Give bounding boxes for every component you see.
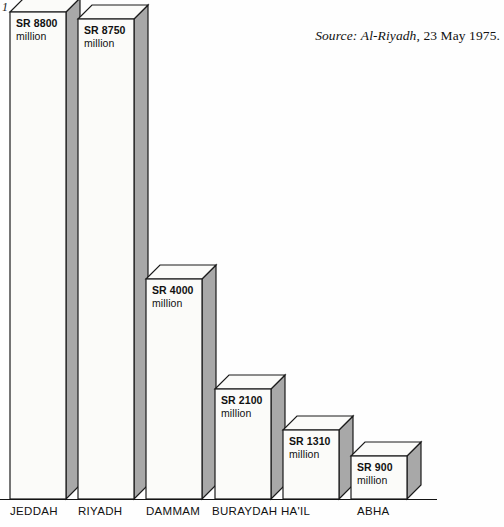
bar-value-unit: million [16, 30, 58, 43]
bar-value-unit: million [152, 297, 194, 310]
category-axis-labels: JEDDAHRIYADHDAMMAMBURAYDAHHA'ILABHA [0, 505, 504, 525]
category-label-abha: ABHA [357, 505, 390, 517]
bars-svg [0, 0, 504, 527]
bar-riyadh [78, 5, 148, 499]
bar-value-amount: SR 900 [357, 461, 393, 474]
bar-chart: SR 8800millionSR 8750millionSR 4000milli… [0, 0, 504, 527]
bar-value-label: SR 2100million [221, 394, 263, 419]
bar-jeddah [10, 0, 80, 499]
bar-value-unit: million [289, 448, 331, 461]
bar-value-amount: SR 8800 [16, 17, 58, 30]
chart-page: 1 Source: Al-Riyadh, 23 May 1975. SR 880… [0, 0, 504, 527]
bar-front-face [10, 12, 66, 499]
bar-side-face [202, 265, 216, 499]
bar-front-face [78, 19, 134, 499]
bar-value-unit: million [221, 407, 263, 420]
category-label-dammam: DAMMAM [146, 505, 200, 517]
bar-value-label: SR 4000million [152, 284, 194, 309]
bar-value-label: SR 8800million [16, 17, 58, 42]
category-label-buraydah: BURAYDAH [212, 505, 277, 517]
bar-value-label: SR 1310million [289, 435, 331, 460]
category-label-hail: HA'IL [281, 505, 310, 517]
bar-front-face [146, 279, 202, 499]
bar-value-label: SR 900million [357, 461, 393, 486]
bar-value-amount: SR 1310 [289, 435, 331, 448]
category-label-riyadh: RIYADH [78, 505, 122, 517]
bar-value-label: SR 8750million [84, 24, 126, 49]
bar-value-unit: million [357, 474, 393, 487]
bar-value-amount: SR 2100 [221, 394, 263, 407]
chart-baseline [0, 499, 437, 500]
bar-value-amount: SR 8750 [84, 24, 126, 37]
bar-value-amount: SR 4000 [152, 284, 194, 297]
category-label-jeddah: JEDDAH [10, 505, 58, 517]
bar-value-unit: million [84, 37, 126, 50]
